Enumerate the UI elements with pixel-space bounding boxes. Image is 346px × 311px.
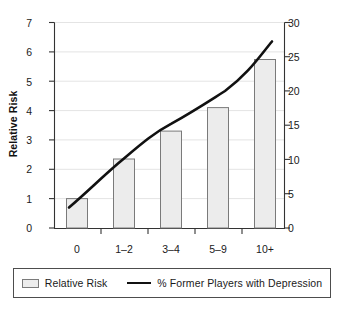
plot-area: Relative Risk % Players with Depression … bbox=[0, 0, 346, 262]
x-axis bbox=[54, 229, 285, 235]
bar-series-relative-risk bbox=[67, 60, 276, 229]
y-left-tick-5: 5 bbox=[10, 76, 32, 88]
bar-10plus bbox=[255, 60, 276, 229]
x-tick-label-1-2: 1–2 bbox=[115, 243, 133, 255]
line-swatch-icon bbox=[127, 282, 151, 284]
y-left-tick-1: 1 bbox=[10, 193, 32, 205]
y-right-tick-0: 0 bbox=[288, 222, 310, 234]
chart-legend: Relative Risk % Former Players with Depr… bbox=[13, 268, 331, 298]
legend-label-relative-risk: Relative Risk bbox=[45, 277, 108, 289]
x-tick-label-10plus: 10+ bbox=[256, 243, 274, 255]
bar-1-2 bbox=[114, 159, 135, 228]
legend-label-percent-depression: % Former Players with Depression bbox=[157, 277, 322, 289]
y-left-tick-6: 6 bbox=[10, 46, 32, 58]
x-tick-label-3-4: 3–4 bbox=[162, 243, 180, 255]
bar-3-4 bbox=[161, 131, 182, 228]
y-right-tick-15: 15 bbox=[288, 119, 310, 131]
bar-swatch-icon bbox=[22, 279, 39, 288]
bar-5-9 bbox=[208, 108, 229, 228]
y-right-tick-30: 30 bbox=[288, 17, 310, 29]
y-left-tick-4: 4 bbox=[10, 105, 32, 117]
y-right-tick-10: 10 bbox=[288, 154, 310, 166]
bar-0 bbox=[67, 199, 88, 228]
y-axis-left-title: Relative Risk bbox=[7, 74, 19, 174]
chart-figure: Relative Risk % Players with Depression … bbox=[0, 0, 346, 311]
x-tick-label-0: 0 bbox=[74, 243, 80, 255]
y-right-tick-20: 20 bbox=[288, 85, 310, 97]
legend-item-percent-depression: % Former Players with Depression bbox=[127, 277, 322, 289]
y-axis-left bbox=[49, 23, 55, 229]
y-left-tick-0: 0 bbox=[10, 222, 32, 234]
y-left-tick-7: 7 bbox=[10, 17, 32, 29]
y-left-tick-2: 2 bbox=[10, 163, 32, 175]
y-right-tick-5: 5 bbox=[288, 188, 310, 200]
y-left-tick-3: 3 bbox=[10, 134, 32, 146]
x-tick-label-5-9: 5–9 bbox=[209, 243, 227, 255]
legend-item-relative-risk: Relative Risk bbox=[22, 277, 108, 289]
y-right-tick-25: 25 bbox=[288, 51, 310, 63]
